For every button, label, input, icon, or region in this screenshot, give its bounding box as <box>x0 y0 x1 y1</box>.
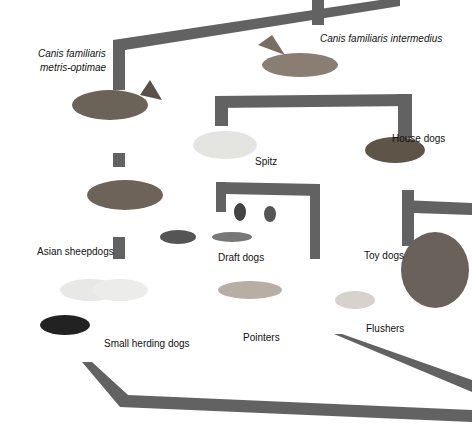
label-flushers: Flushers <box>366 322 404 335</box>
label-house-dogs: House dogs <box>392 132 445 145</box>
label-metris-optimae-line2: metris-optimae <box>40 61 106 74</box>
label-toy-dogs: Toy dogs <box>364 249 404 262</box>
label-intermedius: Canis familiaris intermedius <box>320 32 442 45</box>
label-pointers: Pointers <box>243 331 280 344</box>
label-metris-optimae-line1: Canis familiaris <box>38 47 106 60</box>
label-asian-sheepdogs: Asian sheepdogs <box>37 245 114 258</box>
label-small-herding-dogs: Small herding dogs <box>104 337 190 350</box>
dog-evolution-diagram: Canis familiaris metris-optimae Canis fa… <box>0 0 472 434</box>
label-draft-dogs: Draft dogs <box>218 251 264 264</box>
label-spitz: Spitz <box>255 155 277 168</box>
